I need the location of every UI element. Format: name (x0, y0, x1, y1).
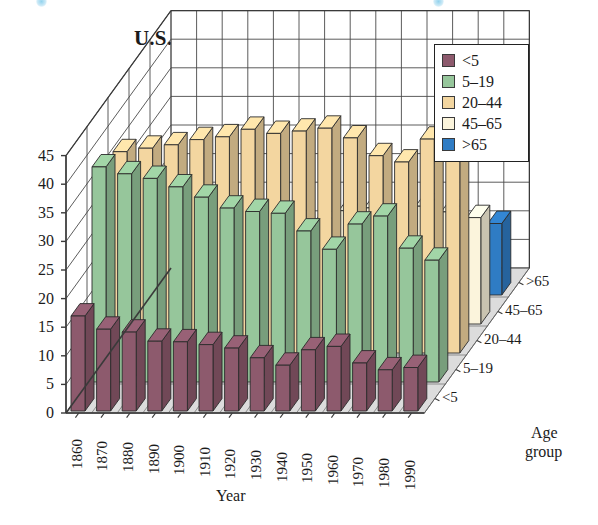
x-tick-label: 1960 (325, 455, 342, 485)
x-tick-label: 1900 (171, 445, 188, 475)
bar-1910-<5 (199, 332, 222, 411)
bar-1930-<5 (250, 345, 273, 411)
y-tick-label: 45 (20, 147, 54, 165)
z-tick-label: 20–44 (484, 331, 522, 348)
bar-face (502, 211, 511, 295)
bar-1860-<5 (71, 304, 94, 411)
z-tick-label: 45–65 (505, 302, 543, 319)
y-tick-label: 5 (20, 375, 54, 393)
bar-face (481, 205, 490, 324)
y-tick-label: 40 (20, 175, 54, 193)
x-tick-label: 1950 (299, 453, 316, 483)
x-tick-label: 1860 (69, 439, 86, 469)
bar-face (173, 342, 187, 411)
top-left-edge (66, 11, 171, 156)
z-tick-label: <5 (442, 389, 458, 406)
x-tick-label: 1880 (120, 442, 137, 472)
x-tick-label: 1970 (350, 457, 367, 487)
z-tick-label: 5–19 (463, 360, 493, 377)
bar-1970-5–19 (374, 204, 397, 382)
bar-face (187, 329, 196, 411)
bar-face (341, 334, 350, 411)
legend: <55–1920–4445–65>65 (434, 44, 529, 162)
bar-face (378, 370, 392, 411)
bar-face (353, 363, 367, 411)
y-tick-label: 0 (20, 404, 54, 422)
bar-face (404, 368, 418, 412)
legend-swatch-icon (442, 117, 455, 130)
bar-1920-<5 (225, 336, 248, 411)
bar-1870-<5 (97, 317, 120, 411)
x-axis-title: Year (216, 487, 245, 505)
x-tick-label: 1980 (376, 458, 393, 488)
legend-label: <5 (462, 53, 479, 69)
y-tick-label: 15 (20, 318, 54, 336)
y-tick-label: 30 (20, 232, 54, 250)
bar-face (122, 332, 136, 411)
legend-swatch-icon (442, 96, 455, 109)
x-tick-label: 1910 (197, 447, 214, 477)
x-tick-label: 1930 (248, 450, 265, 480)
bar-face (136, 320, 145, 411)
bar-face (199, 345, 213, 411)
z-tick (519, 283, 524, 285)
bar-face (250, 358, 264, 411)
bar-face (388, 204, 397, 382)
bar-face (162, 329, 171, 411)
legend-item-1: 5–19 (442, 71, 522, 92)
z-axis-title-line2: group (525, 443, 562, 461)
y-tick-label: 20 (20, 290, 54, 308)
bar-1970-<5 (353, 351, 376, 411)
x-tick-label: 1940 (274, 452, 291, 482)
y-tick-label: 35 (20, 204, 54, 222)
z-tick (435, 399, 440, 401)
x-tick-label: 1890 (146, 444, 163, 474)
z-tick (477, 341, 482, 343)
bar-face (111, 317, 120, 411)
bar-1980-<5 (378, 357, 401, 411)
bar-face (213, 332, 222, 411)
legend-item-4: >65 (442, 134, 522, 155)
bar-1900-<5 (173, 329, 196, 411)
legend-label: 45–65 (462, 116, 502, 132)
bar-1990-<5 (404, 355, 427, 411)
bar-face (85, 304, 94, 411)
bar-1940-<5 (276, 353, 299, 411)
bar-face (439, 248, 448, 382)
bar-1950-<5 (301, 337, 324, 411)
legend-swatch-icon (442, 138, 455, 151)
x-tick-label: 1920 (222, 449, 239, 479)
y-tick-label: 10 (20, 347, 54, 365)
bar-1990-5–19 (425, 248, 448, 382)
z-tick (498, 312, 503, 314)
bar-1880-<5 (122, 320, 145, 411)
chart-figure: U.S. Age Groups 051015202530354045186018… (0, 0, 598, 525)
bar-face (327, 346, 341, 411)
legend-item-3: 45–65 (442, 113, 522, 134)
legend-label: 5–19 (462, 74, 494, 90)
y-tick-label: 25 (20, 261, 54, 279)
legend-swatch-icon (442, 54, 455, 67)
bar-1890-<5 (148, 329, 171, 411)
legend-item-2: 20–44 (442, 92, 522, 113)
z-axis-title-line1: Age (531, 424, 558, 442)
bar-face (276, 365, 290, 411)
z-tick (456, 370, 461, 372)
bar-1960-<5 (327, 334, 350, 411)
x-tick-label: 1990 (402, 460, 419, 490)
bar-face (97, 329, 111, 411)
legend-swatch-icon (442, 75, 455, 88)
bar-face (148, 341, 162, 411)
x-tick-label: 1870 (94, 441, 111, 471)
legend-label: 20–44 (462, 95, 502, 111)
z-tick-label: >65 (526, 273, 549, 290)
bar-face (225, 348, 239, 411)
legend-item-0: <5 (442, 50, 522, 71)
legend-label: >65 (462, 137, 487, 153)
bar-1990-45–65 (467, 205, 490, 324)
bar-face (301, 350, 315, 411)
bar-1990->65 (488, 211, 511, 295)
